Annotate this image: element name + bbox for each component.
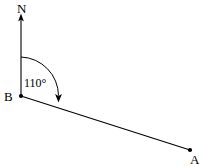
bearing-diagram-canvas: N B A 110° [0,0,205,167]
angle-measure-label: 110° [24,76,47,90]
point-b-dot [19,94,23,98]
point-b-label: B [4,89,13,104]
point-a-label: A [190,152,200,167]
north-label: N [17,1,27,16]
bearing-diagram-svg: N B A 110° [0,0,205,167]
ba-ray-group [21,96,190,150]
ba-ray-line [21,96,190,150]
